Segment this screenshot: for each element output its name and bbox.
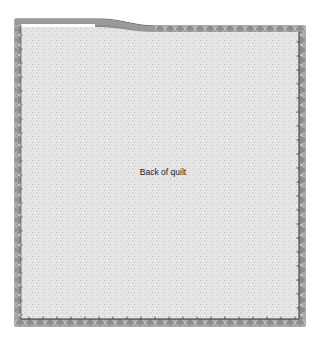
binding-fold (21, 24, 95, 27)
back-of-quilt-label: Back of quilt (140, 167, 186, 177)
right-binding (299, 26, 305, 326)
left-binding (15, 19, 21, 326)
quilt-diagram: Back of quilt (0, 0, 320, 339)
top-right-binding (155, 26, 305, 32)
bottom-binding (15, 319, 305, 326)
